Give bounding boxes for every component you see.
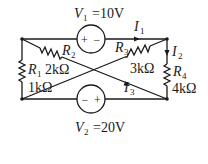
v1-minus: − [94, 33, 101, 47]
r3-value: 3kΩ [130, 61, 154, 76]
v2-plus: + [94, 93, 101, 107]
i2-label: I 2 [171, 44, 183, 61]
r2-value: 2kΩ [45, 62, 69, 77]
node-top-right [165, 37, 169, 41]
r3-label: R 3 3kΩ [114, 40, 154, 76]
i2-name: I [171, 44, 178, 59]
v1-plus: + [81, 33, 88, 47]
r3-resistor-icon [125, 45, 150, 57]
r3-wire-a [150, 39, 167, 46]
i3-sub: 3 [130, 87, 135, 97]
i1-label: I 1 [133, 19, 145, 36]
circuit-diagram: + − − + V 1 =10V V 2 =20V I 1 I 2 [0, 0, 208, 164]
r1-resistor-icon [19, 60, 25, 82]
r3-sub: 3 [124, 47, 129, 57]
v2-sub: 2 [84, 127, 89, 137]
r2-resistor-icon [40, 47, 62, 59]
r4-label: R 4 4kΩ [172, 64, 196, 96]
r2-sub: 2 [71, 50, 76, 60]
node-bottom-left [20, 97, 24, 101]
node-top-left [20, 37, 24, 41]
v1-value: =10V [92, 6, 124, 21]
i1-arrow-icon [134, 37, 140, 42]
r1-name: R [27, 62, 37, 77]
node-bottom-right [165, 97, 169, 101]
r4-value: 4kΩ [172, 81, 196, 96]
i2-sub: 2 [178, 51, 183, 61]
v1-label: V 1 =10V [74, 6, 124, 23]
r2-name: R [61, 43, 71, 58]
i1-sub: 1 [140, 26, 145, 36]
i1-name: I [133, 19, 140, 34]
r4-name: R [172, 64, 182, 79]
r2-wire-a [22, 39, 40, 48]
r1-value: 1kΩ [28, 80, 52, 95]
i2-arrow-icon [165, 50, 170, 56]
i3-name: I [123, 80, 130, 95]
r4-sub: 4 [182, 71, 187, 81]
r4-resistor-icon [164, 64, 170, 86]
r3-name: R [114, 40, 124, 55]
r1-sub: 1 [37, 69, 42, 79]
v1-sub: 1 [83, 13, 88, 23]
v2-minus: − [82, 93, 89, 107]
i3-label: I 3 [123, 80, 135, 97]
v2-label: V 2 =20V [75, 120, 125, 137]
v2-value: =20V [93, 120, 125, 135]
